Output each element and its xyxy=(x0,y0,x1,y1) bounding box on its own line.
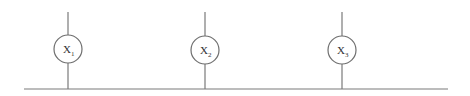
node-x3-label: X xyxy=(337,44,345,56)
node-x2: X 2 xyxy=(191,12,219,89)
node-x2-label: X xyxy=(200,44,208,56)
node-x2-subscript: 2 xyxy=(208,51,212,59)
bus-diagram: X 1 X 2 X 3 xyxy=(0,0,470,96)
node-x1: X 1 xyxy=(54,12,82,89)
node-x1-label: X xyxy=(63,43,71,55)
node-x1-subscript: 1 xyxy=(71,50,75,58)
node-x3-subscript: 3 xyxy=(345,51,349,59)
node-x3: X 3 xyxy=(328,12,356,89)
